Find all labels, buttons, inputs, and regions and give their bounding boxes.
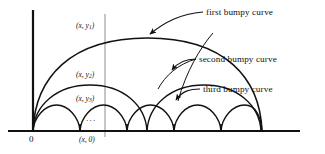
- ellipsis-label: ...: [86, 114, 96, 123]
- callout-third-bumpy-curve: third bumpy curve: [203, 85, 273, 94]
- point-label-x0-open: (x, 0: [79, 135, 92, 144]
- callout-second-bumpy-curve: second bumpy curve: [199, 55, 277, 64]
- point-label-y3: (x, y3): [76, 95, 94, 103]
- point-label-y3-open: (x, y: [76, 94, 89, 103]
- point-label-y1-open: (x, y: [76, 21, 89, 30]
- point-label-x0: (x, 0): [79, 136, 95, 144]
- bumpy-curves-figure: [0, 0, 325, 154]
- point-label-x0-close: ): [92, 135, 95, 144]
- origin-label: 0: [29, 135, 34, 144]
- point-label-y2-open: (x, y: [76, 70, 89, 79]
- point-label-y2-close: ): [92, 70, 95, 79]
- point-label-y2: (x, y2): [76, 71, 94, 79]
- callout-first-bumpy-curve: first bumpy curve: [206, 8, 273, 17]
- point-label-y1: (x, y1): [76, 22, 94, 30]
- point-label-y3-close: ): [92, 94, 95, 103]
- point-label-y1-close: ): [92, 21, 95, 30]
